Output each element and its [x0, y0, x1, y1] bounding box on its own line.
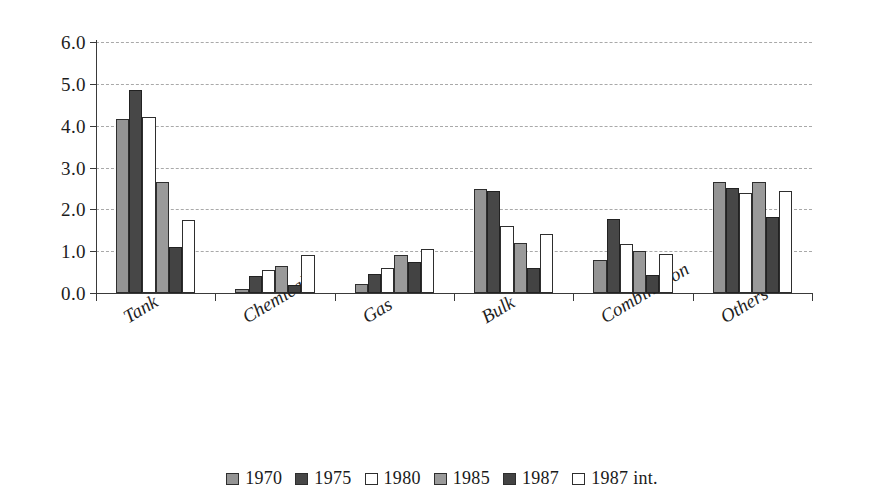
bar-chemical-1985 [275, 266, 288, 293]
y-axis-tick-label: 2.0 [24, 200, 86, 219]
bar-bulk-1970 [474, 189, 487, 293]
bar-tank-1980 [142, 117, 155, 293]
bar-others-1987 [766, 217, 779, 293]
y-axis-tick-label: 1.0 [24, 242, 86, 261]
bar-others-1970 [713, 182, 726, 293]
bar-gas-1980 [381, 268, 394, 293]
legend-item-1970[interactable]: 1970 [226, 468, 282, 489]
legend-label: 1980 [384, 468, 421, 489]
x-axis-group-separator [335, 293, 336, 301]
bar-combination-1985 [633, 251, 646, 293]
bar-combination-1987-int- [659, 254, 672, 293]
bar-tank-1987 [169, 247, 182, 293]
legend-item-1987-int-[interactable]: 1987 int. [572, 468, 658, 489]
bar-bulk-1980 [500, 226, 513, 293]
plot-area [96, 42, 812, 293]
bar-chemical-1980 [262, 270, 275, 293]
bar-tank-1970 [116, 119, 129, 293]
y-axis-tick [90, 126, 97, 127]
y-axis-tick [90, 251, 97, 252]
bar-gas-1970 [355, 284, 368, 293]
legend-swatch-icon [503, 473, 516, 485]
bar-combination-1980 [620, 244, 633, 293]
bar-gas-1985 [394, 255, 407, 293]
bar-chemical-1970 [235, 289, 248, 293]
bar-gas-1987-int- [421, 249, 434, 293]
bar-others-1975 [726, 188, 739, 293]
chart-legend: 197019751980198519871987 int. [0, 468, 884, 489]
legend-item-1980[interactable]: 1980 [365, 468, 421, 489]
legend-swatch-icon [434, 473, 447, 485]
legend-label: 1975 [314, 468, 351, 489]
bar-bulk-1987 [527, 268, 540, 293]
y-axis-tick [90, 84, 97, 85]
legend-label: 1987 [522, 468, 559, 489]
y-axis-tick [90, 168, 97, 169]
y-axis-labels: 0.01.02.03.04.05.06.0 [10, 42, 86, 293]
bar-tank-1985 [156, 182, 169, 293]
bar-tank-1987-int- [182, 220, 195, 293]
y-axis-tick-label: 3.0 [24, 159, 86, 178]
bar-others-1987-int- [779, 191, 792, 293]
legend-swatch-icon [226, 473, 239, 485]
legend-swatch-icon [295, 473, 308, 485]
legend-swatch-icon [572, 473, 585, 485]
legend-item-1987[interactable]: 1987 [503, 468, 559, 489]
bar-chart-figure: 0.01.02.03.04.05.06.0 TankChemicalGasBul… [0, 0, 884, 504]
legend-label: 1970 [245, 468, 282, 489]
legend-item-1975[interactable]: 1975 [295, 468, 351, 489]
bar-combination-1970 [593, 260, 606, 293]
x-axis-group-separator [454, 293, 455, 301]
y-axis-tick [90, 209, 97, 210]
y-axis-tick-label: 0.0 [24, 284, 86, 303]
x-axis-group-separator [693, 293, 694, 301]
x-axis-end-tick [96, 293, 97, 301]
bar-chemical-1987 [288, 285, 301, 293]
x-axis-end-tick [812, 293, 813, 301]
legend-label: 1987 int. [591, 468, 658, 489]
bar-combination-1987 [646, 275, 659, 293]
y-axis-tick-label: 5.0 [24, 75, 86, 94]
bar-group [693, 42, 812, 293]
bar-others-1985 [752, 182, 765, 293]
bar-combination-1975 [607, 219, 620, 293]
x-axis-group-separator [573, 293, 574, 301]
x-axis-group-separator [215, 293, 216, 301]
bar-bulk-1985 [514, 243, 527, 293]
y-axis-tick [90, 42, 97, 43]
x-axis-label-gas: Gas [359, 294, 396, 327]
bar-others-1980 [739, 193, 752, 293]
x-axis-label-bulk: Bulk [478, 292, 518, 327]
legend-item-1985[interactable]: 1985 [434, 468, 490, 489]
bar-gas-1987 [408, 262, 421, 293]
x-axis-label-tank: Tank [120, 291, 161, 327]
legend-label: 1985 [453, 468, 490, 489]
bar-chemical-1975 [249, 276, 262, 293]
bar-gas-1975 [368, 274, 381, 293]
bar-chemical-1987-int- [301, 255, 314, 293]
bar-bulk-1987-int- [540, 234, 553, 293]
y-axis-tick-label: 6.0 [24, 33, 86, 52]
legend-swatch-icon [365, 473, 378, 485]
bar-group [215, 42, 334, 293]
bar-group [96, 42, 215, 293]
y-axis-tick-label: 4.0 [24, 117, 86, 136]
bar-bulk-1975 [487, 191, 500, 293]
bar-group [335, 42, 454, 293]
bar-group [454, 42, 573, 293]
bar-group [573, 42, 692, 293]
bar-tank-1975 [129, 90, 142, 293]
